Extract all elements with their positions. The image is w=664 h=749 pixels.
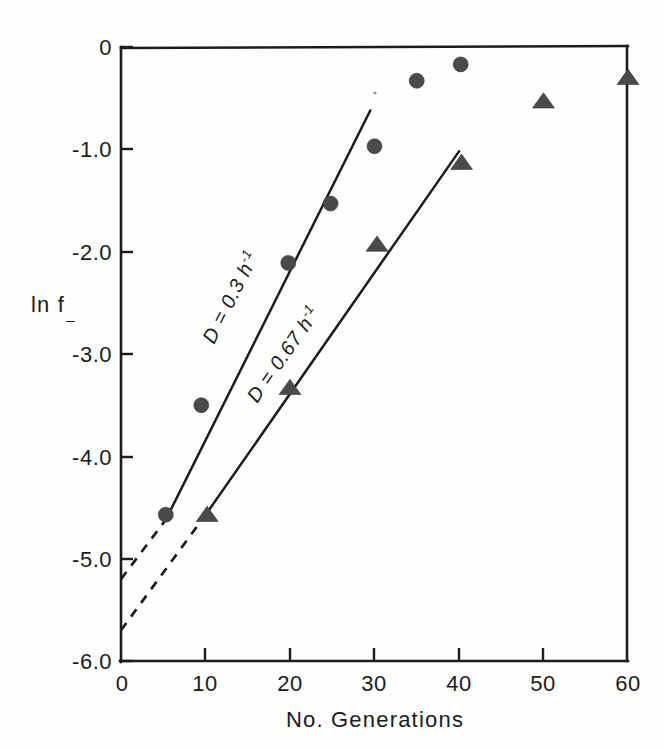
data-points-series-2 [196,69,639,521]
data-point-circle [367,139,382,154]
annotation-line-2-text: D = 0.67 h [242,313,317,407]
annotation-line-1-text: D = 0.3 h [198,259,257,347]
annotation-line-1: D = 0.3 h-1 [196,247,263,347]
fit-line-1-dashed [121,520,166,579]
x-tick-label-6: 60 [615,671,640,696]
data-points-series-1 [158,57,468,522]
x-tick-label-5: 50 [530,671,555,696]
x-tick-label-3: 30 [361,671,386,696]
fit-line-2-dashed [121,513,207,631]
figure-container: 0 -1.0 -2.0 -3.0 -4.0 -5.0 -6.0 0 10 20 … [0,0,664,749]
data-point-triangle [366,236,388,251]
data-point-triangle [533,93,555,108]
data-point-triangle [617,69,639,84]
y-axis-title-text: ln f [31,292,65,317]
scatter-plot: 0 -1.0 -2.0 -3.0 -4.0 -5.0 -6.0 0 10 20 … [0,0,664,749]
data-point-circle [158,507,173,522]
y-axis-ticks [121,47,133,661]
data-point-circle [194,398,209,413]
y-tick-label-1: -1.0 [72,137,112,162]
x-tick-label-4: 40 [446,671,471,696]
x-tick-label-0: 0 [116,671,129,696]
y-axis-tick-labels: 0 -1.0 -2.0 -3.0 -4.0 -5.0 -6.0 [72,35,112,674]
y-tick-label-3: -3.0 [72,342,112,367]
x-axis-ticks [205,648,543,661]
series-annotations: D = 0.3 h-1 D = 0.67 h-1 [196,247,324,406]
axis-top [121,46,628,48]
data-point-circle [323,196,338,211]
x-axis-title: No. Generations [286,707,464,732]
data-point-circle [453,57,468,72]
x-axis-tick-labels: 0 10 20 30 40 50 60 [116,671,641,696]
fit-line-series-1 [121,110,370,579]
data-point-circle [409,73,424,88]
x-tick-label-2: 20 [277,671,302,696]
y-tick-label-0: 0 [99,35,112,60]
data-point-triangle [451,154,473,169]
y-tick-label-5: -5.0 [72,547,112,572]
y-tick-label-4: -4.0 [72,445,112,470]
y-axis-title: ln f_ [31,292,76,322]
x-tick-label-1: 10 [192,671,217,696]
scan-speck [373,91,376,94]
y-tick-label-6: -6.0 [72,649,112,674]
fit-line-1-solid [166,110,370,519]
y-axis-title-subscript: _ [65,305,76,322]
data-point-triangle [196,506,218,521]
plot-frame [120,46,628,662]
data-point-circle [281,255,296,270]
y-tick-label-2: -2.0 [72,240,112,265]
